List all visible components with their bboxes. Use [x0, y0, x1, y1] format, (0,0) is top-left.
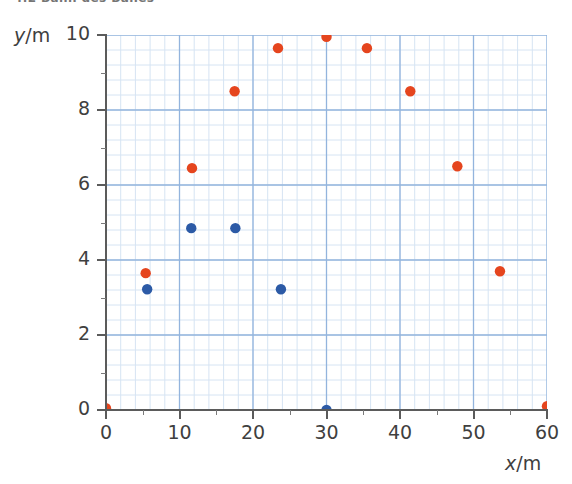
data-point: [452, 161, 462, 171]
y-tick-8: [97, 109, 106, 111]
x-tick-50: [473, 410, 475, 419]
data-point: [495, 266, 505, 276]
x-minor-tick: [143, 410, 144, 415]
data-point: [405, 86, 415, 96]
y-axis-title: y/m: [14, 24, 50, 46]
data-point: [362, 43, 372, 53]
y-tick-label-8: 8: [46, 97, 90, 119]
x-tick-30: [326, 410, 328, 419]
x-tick-20: [252, 410, 254, 419]
y-minor-tick: [101, 148, 106, 149]
y-minor-tick: [101, 373, 106, 374]
data-point: [230, 223, 240, 233]
y-tick-10: [97, 34, 106, 36]
x-axis-symbol: x: [505, 452, 516, 474]
y-tick-2: [97, 334, 106, 336]
x-minor-tick: [216, 410, 217, 415]
data-point: [187, 163, 197, 173]
x-tick-10: [179, 410, 181, 419]
x-tick-0: [105, 410, 107, 419]
y-tick-6: [97, 184, 106, 186]
y-tick-label-10: 10: [46, 22, 90, 44]
x-tick-label-50: 50: [444, 421, 504, 443]
x-tick-label-40: 40: [370, 421, 430, 443]
x-minor-tick: [510, 410, 511, 415]
scatter-plot-figure: 4.2 Bahn des Balles 02468100102030405060…: [0, 0, 572, 484]
x-tick-label-30: 30: [297, 421, 357, 443]
data-point: [273, 43, 283, 53]
x-tick-label-0: 0: [76, 421, 136, 443]
y-axis-unit: m: [32, 24, 51, 46]
y-tick-label-4: 4: [46, 247, 90, 269]
plot-area: [106, 35, 547, 410]
data-points-layer: [106, 35, 547, 410]
x-tick-60: [546, 410, 548, 419]
figure-caption: 4.2 Bahn des Balles: [14, 0, 154, 5]
data-point: [186, 223, 196, 233]
data-point: [140, 268, 150, 278]
y-tick-4: [97, 259, 106, 261]
x-tick-label-20: 20: [223, 421, 283, 443]
x-axis-title: x/m: [505, 452, 541, 474]
y-minor-tick: [101, 223, 106, 224]
x-tick-label-10: 10: [150, 421, 210, 443]
y-axis-symbol: y: [14, 24, 25, 46]
y-minor-tick: [101, 73, 106, 74]
data-point: [276, 284, 286, 294]
y-tick-label-0: 0: [46, 397, 90, 419]
y-minor-tick: [101, 298, 106, 299]
x-tick-40: [399, 410, 401, 419]
x-minor-tick: [290, 410, 291, 415]
x-tick-label-60: 60: [517, 421, 572, 443]
data-point: [321, 35, 331, 42]
x-axis-unit: m: [523, 452, 542, 474]
x-minor-tick: [437, 410, 438, 415]
data-point: [229, 86, 239, 96]
y-tick-label-6: 6: [46, 172, 90, 194]
data-point: [142, 284, 152, 294]
y-tick-label-2: 2: [46, 322, 90, 344]
x-minor-tick: [363, 410, 364, 415]
